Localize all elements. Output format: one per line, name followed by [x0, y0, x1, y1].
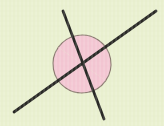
geometry-figure [0, 0, 164, 126]
angle-diagram-svg [0, 0, 164, 126]
